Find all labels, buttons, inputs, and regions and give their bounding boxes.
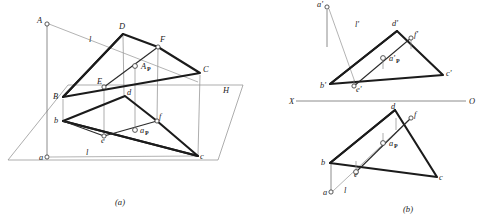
label-ap-top-subscript: P (394, 143, 398, 149)
label-f: f (159, 112, 163, 121)
label-d: d (127, 88, 132, 97)
vertex-node-ap (133, 128, 138, 133)
line-l-plan (50, 156, 197, 157)
label-ap-subscript: P (145, 130, 149, 136)
vertex-node-ap-front (381, 56, 386, 61)
label-l-lower: l (86, 148, 89, 157)
label-a-top: a (323, 188, 327, 197)
label-ap: a (140, 126, 144, 135)
vertex-node-E (102, 85, 106, 89)
label-a: a (39, 153, 43, 162)
label-c-top: c (439, 173, 443, 182)
label-f-top: f (414, 110, 418, 119)
vertex-node-a-top (329, 190, 333, 194)
caption-b: (b) (403, 204, 413, 214)
label-e-front: e' (356, 85, 362, 94)
label-c-front: c' (446, 69, 452, 78)
label-l-upper: l (89, 35, 92, 44)
top-edge-b-d (330, 110, 395, 163)
vertex-node-ap-top (381, 141, 386, 146)
label-b-front: b' (320, 81, 326, 90)
label-l-front: l' (355, 20, 359, 29)
label-d-front: d' (392, 19, 398, 28)
label-axis-X: X (288, 97, 295, 106)
vertex-node-AP (133, 64, 138, 69)
label-b-top: b (321, 158, 325, 167)
label-ap-top: a (389, 139, 393, 148)
label-ap-front: a' (389, 54, 395, 63)
label-axis-O: O (469, 97, 475, 106)
label-ap-front-subscript: P (396, 58, 400, 64)
label-A: A (36, 16, 43, 25)
label-a-front: a' (317, 0, 323, 9)
label-e: e (101, 136, 105, 145)
projector-C-c (198, 75, 200, 155)
label-AP-subscript: P (147, 66, 151, 72)
projector-F-f (157, 49, 158, 120)
vertex-node-f-front (409, 36, 413, 40)
label-plane-H: H (222, 86, 230, 95)
label-D: D (118, 22, 125, 31)
vertex-node-a (45, 155, 49, 159)
label-B: B (53, 92, 58, 101)
label-E: E (96, 77, 102, 86)
plan-edge-e-f (104, 121, 157, 136)
label-C: C (203, 65, 209, 74)
label-f-front: f' (414, 30, 418, 39)
space-triangle-outline (63, 34, 200, 97)
technical-drawing-canvas: A D F C E B d f b e c a l l H A P a P (a… (0, 0, 478, 222)
panel-a-group (8, 22, 243, 160)
label-F: F (159, 35, 166, 44)
label-l-top: l (344, 186, 347, 195)
descriptive-geometry-figure: A D F C E B d f b e c a l l H A P a P (a… (0, 0, 478, 222)
vertex-node-f-top (409, 116, 413, 120)
vertex-node-A (45, 22, 49, 26)
vertex-node-a-front (325, 5, 329, 9)
vertex-node-F (156, 45, 160, 49)
plan-edge-b-e (63, 121, 104, 136)
label-e-top: e (354, 170, 358, 179)
label-c: c (200, 152, 204, 161)
label-AP: A (140, 62, 147, 71)
front-edge-b-d (330, 31, 397, 84)
label-b: b (54, 116, 58, 125)
caption-a: (a) (115, 197, 125, 207)
